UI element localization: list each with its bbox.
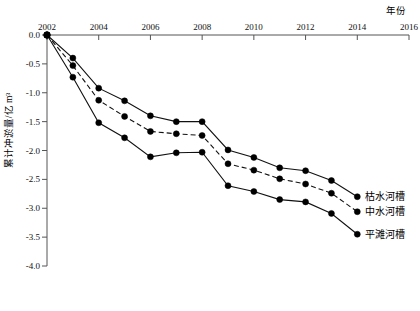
- series-label-2: 中水河槽: [365, 205, 405, 217]
- y-tick-label: -2.5: [26, 174, 41, 184]
- x-tick-label: 2014: [348, 22, 367, 32]
- series-label-1: 枯水河槽: [365, 190, 405, 202]
- y-tick-label: -2.0: [26, 146, 41, 156]
- data-point: [173, 119, 179, 125]
- data-point: [122, 98, 128, 104]
- x-tick-label: 2010: [245, 22, 264, 32]
- data-point: [277, 165, 283, 171]
- series-end-labels: 枯水河槽中水河槽平滩河槽: [365, 190, 405, 240]
- data-point: [251, 154, 257, 160]
- data-point: [147, 113, 153, 119]
- data-point: [251, 189, 257, 195]
- data-point: [96, 97, 102, 103]
- data-point: [173, 150, 179, 156]
- y-tick-label: -3.0: [26, 203, 41, 213]
- data-point: [225, 183, 231, 189]
- data-point: [199, 132, 205, 138]
- data-point: [303, 181, 309, 187]
- data-point: [173, 131, 179, 137]
- data-point: [354, 231, 360, 237]
- data-point: [199, 149, 205, 155]
- data-point: [96, 85, 102, 91]
- data-point: [44, 32, 50, 38]
- x-tick-label: 2008: [193, 22, 212, 32]
- data-point: [328, 190, 334, 196]
- x-axis-title: 年份: [386, 5, 406, 16]
- data-point: [199, 119, 205, 125]
- x-axis: 20022004200620082010201220142016: [38, 22, 419, 40]
- data-point: [277, 197, 283, 203]
- data-point: [70, 63, 76, 69]
- y-tick-label: 0.0: [29, 30, 41, 40]
- data-point: [328, 210, 334, 216]
- data-point: [70, 55, 76, 61]
- y-tick-label: -1.5: [26, 117, 41, 127]
- x-tick-label: 2002: [38, 22, 56, 32]
- y-tick-label: -0.5: [26, 59, 41, 69]
- data-point: [122, 113, 128, 119]
- data-point: [354, 194, 360, 200]
- y-axis-title: 累计冲淤量/亿 m³: [3, 93, 14, 168]
- data-point: [303, 199, 309, 205]
- line-chart: 20022004200620082010201220142016 0.0-0.5…: [0, 0, 420, 311]
- data-point: [225, 147, 231, 153]
- x-tick-label: 2004: [90, 22, 109, 32]
- data-point: [96, 120, 102, 126]
- data-point: [354, 209, 360, 215]
- x-tick-label: 2016: [400, 22, 419, 32]
- data-point: [147, 154, 153, 160]
- x-tick-label: 2012: [297, 22, 315, 32]
- y-tick-label: -1.0: [26, 88, 41, 98]
- y-axis: 0.0-0.5-1.0-1.5-2.0-2.5-3.0-3.5-4.0: [26, 30, 47, 271]
- series-lines: [44, 32, 360, 237]
- data-point: [277, 176, 283, 182]
- series-label-3: 平滩河槽: [365, 228, 405, 240]
- y-tick-label: -4.0: [26, 261, 41, 271]
- data-point: [251, 167, 257, 173]
- data-point: [328, 178, 334, 184]
- chart-container: 20022004200620082010201220142016 0.0-0.5…: [0, 0, 420, 311]
- data-point: [147, 128, 153, 134]
- y-tick-label: -3.5: [26, 232, 41, 242]
- data-point: [70, 74, 76, 80]
- data-point: [225, 161, 231, 167]
- series-line-1: [47, 35, 357, 197]
- x-tick-label: 2006: [141, 22, 160, 32]
- data-point: [122, 135, 128, 141]
- data-point: [303, 168, 309, 174]
